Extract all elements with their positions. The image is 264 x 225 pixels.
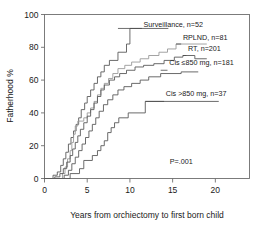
figure-container: 020406080100 05101520 Surveillance, n=52… (0, 0, 264, 225)
x-axis-title: Years from orchiectomy to first born chi… (70, 210, 224, 220)
fatherhood-kaplan-meier-chart: 020406080100 05101520 Surveillance, n=52… (0, 0, 264, 225)
x-axis-ticks: 05101520 (42, 179, 220, 195)
series-label: RT, n=201 (188, 44, 221, 53)
x-tick-label: 10 (125, 185, 135, 195)
p-value-annotation: P=.001 (170, 157, 193, 166)
x-tick-label: 5 (85, 185, 90, 195)
y-tick-label: 20 (29, 141, 39, 151)
series-label: Surveillance, n=52 (144, 20, 203, 29)
series-label: Cis >850 mg, n=37 (166, 89, 227, 98)
y-tick-label: 60 (29, 75, 39, 85)
series-label: Cis ≤850 mg, n=181 (169, 58, 233, 67)
x-tick-label: 15 (168, 185, 178, 195)
y-axis-title: Fatherhood % (5, 69, 15, 123)
y-axis-ticks: 020406080100 (24, 10, 44, 184)
y-tick-label: 0 (34, 174, 39, 184)
series-label: RPLND, n=81 (183, 33, 228, 42)
y-tick-label: 100 (24, 10, 38, 20)
series-labels: Surveillance, n=52RPLND, n=81RT, n=201Ci… (144, 20, 234, 98)
y-tick-label: 40 (29, 108, 39, 118)
series-curve (45, 28, 169, 178)
chart-annotations: P=.001 (170, 157, 193, 166)
x-tick-label: 20 (211, 185, 221, 195)
x-tick-label: 0 (42, 185, 47, 195)
y-tick-label: 80 (29, 42, 39, 52)
